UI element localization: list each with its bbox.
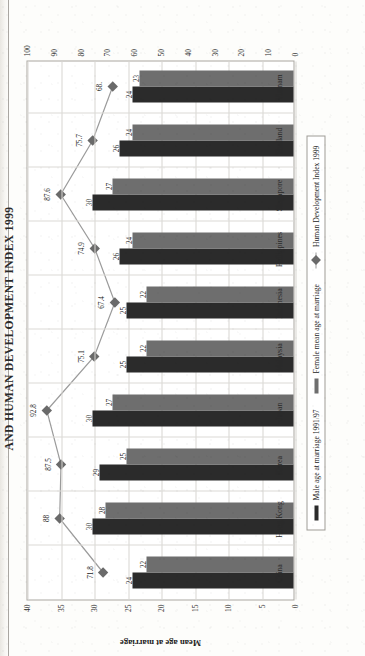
y-tick-right: 20 [237,48,246,56]
scanned-page: AND HUMAN DEVELOPMENT INDEX 1999 Mean ag… [0,0,365,656]
category-label: Philippines [274,231,283,266]
y-tick-right: 50 [157,48,166,56]
hdi-value-label: 88 [42,514,50,521]
y-tick-left: 40 [23,604,32,612]
y-tick-right: 80 [76,48,85,56]
hdi-marker [87,135,97,145]
bar-female [132,124,293,140]
legend-hdi-diamond-icon [311,252,320,268]
legend-item[interactable]: Human Development Index 1999 [311,145,320,267]
bar-male [132,86,293,102]
bar-value-male: 26 [112,253,120,260]
legend-male-swatch-icon [314,505,318,520]
y-tick-right: 0 [291,52,300,56]
bar-value-female: 23 [132,74,140,81]
y-tick-right: 60 [130,48,139,56]
bar-value-male: 30 [85,415,93,422]
bar-female [132,232,293,248]
y-tick-right: 30 [210,48,219,56]
bar-value-male: 29 [92,469,100,476]
category-label: Thailand [274,127,283,155]
bar-female [146,286,293,302]
bar-male [99,464,293,480]
legend-female-swatch-icon [314,378,318,393]
y-tick-left: 10 [224,604,233,612]
y-tick-left: 20 [157,604,166,612]
gridline [27,61,28,599]
y-tick-right: 70 [103,48,112,56]
bar-male [92,410,293,426]
category-divider [27,274,293,275]
bar-value-male: 26 [112,145,120,152]
bar-female [139,70,293,86]
bar-value-female: 22 [139,290,147,297]
y-tick-left: 5 [257,604,266,608]
bar-value-male: 24 [125,577,133,584]
hdi-value-label: 68. [95,82,103,91]
category-divider [27,382,293,383]
bar-female [112,394,293,410]
y-tick-left: 15 [190,604,199,612]
bar-male [119,140,293,156]
chart-legend: Male age at marriage 1991/97Female mean … [306,135,325,530]
bar-female [112,178,293,194]
category-divider [27,328,293,329]
legend-label: Human Development Index 1999 [311,145,320,246]
chart-canvas: AND HUMAN DEVELOPMENT INDEX 1999 Mean ag… [0,0,365,656]
bar-value-male: 30 [85,199,93,206]
legend-item[interactable]: Female mean age at marriage [311,284,320,393]
bar-value-female: 27 [105,398,113,405]
hdi-marker [107,81,117,91]
bar-value-male: 24 [125,91,133,98]
bar-value-female: 24 [125,236,133,243]
category-label: Japan [274,402,283,420]
bar-value-female: 28 [98,506,106,513]
bar-male [132,572,293,588]
category-label: Singapore [274,179,283,211]
y-tick-right: 40 [183,48,192,56]
gridline [61,61,62,599]
bar-value-female: 24 [125,128,133,135]
hdi-value-label: 71.8 [86,566,94,579]
y-tick-right: 90 [49,48,58,56]
hdi-value-label: 87.6 [43,188,51,201]
legend-label: Male age at marriage 1991/97 [311,409,320,500]
category-divider [27,220,293,221]
category-label: Vietnam [274,74,283,100]
category-label: Hong Kong [274,501,283,538]
bar-value-male: 30 [85,523,93,530]
bar-value-male: 25 [119,361,127,368]
legend-label: Female mean age at marriage [311,284,320,373]
y-tick-right: 100 [23,45,32,56]
bar-value-female: 22 [139,344,147,351]
y-tick-left: 25 [123,604,132,612]
bar-male [119,248,293,264]
hdi-value-label: 75.1 [77,350,85,363]
category-label: Malaysia [274,343,283,372]
category-divider [27,436,293,437]
category-divider [27,112,293,113]
bar-value-female: 25 [119,452,127,459]
bar-male [126,356,294,372]
y-axis-title-left: Mean age at marriage [26,636,294,650]
chart-title: AND HUMAN DEVELOPMENT INDEX 1999 [2,0,14,656]
bar-value-male: 25 [119,307,127,314]
category-label: Indonesia [274,288,283,318]
bar-female [126,448,294,464]
y-tick-left: 35 [56,604,65,612]
hdi-marker [109,297,119,307]
hdi-value-label: 75.7 [75,134,83,147]
y-tick-left: 0 [291,604,300,608]
bar-value-female: 22 [139,560,147,567]
bar-female [105,502,293,518]
bar-male [92,194,293,210]
category-label: China [274,564,283,583]
hdi-marker [97,567,107,577]
hdi-value-label: 74.9 [77,242,85,255]
bar-male [126,302,294,318]
legend-item[interactable]: Male age at marriage 1991/97 [311,409,320,520]
category-divider [27,544,293,545]
hdi-value-label: 87.5 [44,458,52,471]
gridline [295,61,296,599]
hdi-value-label: 92.8 [29,404,37,417]
